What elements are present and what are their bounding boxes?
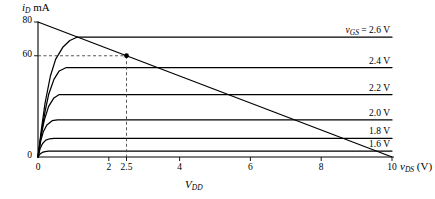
x-tick-label: 6 (238, 162, 262, 172)
x-tick-label: 8 (309, 162, 333, 172)
x-tick-label: 10 (380, 162, 404, 172)
curve-label-20V: 2.0 V (272, 108, 392, 118)
curve-16V (38, 151, 392, 157)
q-point-marker (124, 53, 129, 58)
y-tick-label: 0 (8, 150, 32, 160)
transistor-output-characteristics-figure: iD mA vDS (V) VDD 022.54681006080vGS = 2… (0, 0, 435, 199)
curve-label-18V: 1.8 V (272, 126, 392, 136)
x-tick-label: 4 (168, 162, 192, 172)
curve-label-16V: 1.6 V (272, 139, 392, 149)
y-tick-label: 80 (8, 15, 32, 25)
x-tick-label: 2.5 (115, 162, 139, 172)
curve-label-26V: vGS = 2.6 V (272, 25, 392, 37)
curve-label-24V: 2.4 V (272, 56, 392, 66)
curve-label-22V: 2.2 V (272, 83, 392, 93)
y-tick-label: 60 (8, 49, 32, 59)
x-tick-label: 0 (26, 162, 50, 172)
